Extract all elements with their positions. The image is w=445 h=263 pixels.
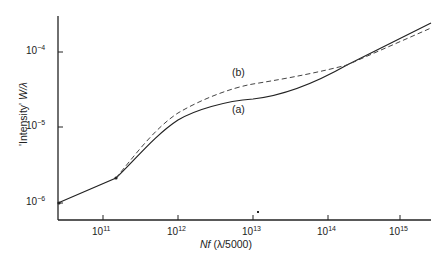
curve-b-label: (b) bbox=[232, 66, 245, 78]
xtick-label-1e11: 1011 bbox=[92, 225, 110, 237]
data-point bbox=[114, 176, 117, 179]
xtick-label-1e15: 1015 bbox=[389, 225, 408, 237]
x-axis-label: Nf (λ/5000) bbox=[200, 238, 252, 250]
data-point bbox=[57, 201, 60, 204]
curve-b bbox=[116, 28, 431, 178]
y-ticks bbox=[58, 52, 63, 203]
xtick-label-1e14: 1014 bbox=[317, 225, 336, 237]
chart-plot bbox=[0, 0, 445, 263]
y-axis-label: 'Intensity' W/λ bbox=[17, 39, 29, 189]
ytick-label-1e-6: 10−6 bbox=[26, 195, 45, 207]
marker-dot bbox=[257, 211, 259, 213]
curve-a-label: (a) bbox=[232, 103, 245, 115]
xtick-label-1e12: 1012 bbox=[167, 225, 186, 237]
xtick-label-1e13: 1013 bbox=[242, 225, 261, 237]
x-ticks bbox=[103, 215, 400, 220]
